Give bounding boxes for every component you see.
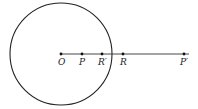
point-p-prime <box>183 53 186 56</box>
point-r <box>122 53 125 56</box>
label-p-prime: P′ <box>179 57 188 67</box>
point-r-prime <box>101 53 104 56</box>
label-o: O <box>58 57 66 67</box>
label-r: R <box>119 57 127 67</box>
inversion-diagram: O P R′ R P′ <box>0 0 198 109</box>
label-p: P <box>78 57 86 67</box>
label-r-prime: R′ <box>97 57 107 67</box>
point-o <box>60 53 63 56</box>
point-p <box>81 53 84 56</box>
